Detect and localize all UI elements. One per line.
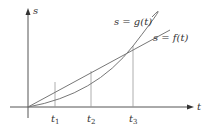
curve-g-label: s = g(t)	[114, 16, 152, 27]
curve-f-label: s = f(t)	[153, 32, 188, 43]
curve-f	[28, 30, 170, 107]
s-axis-arrow-icon	[26, 8, 31, 15]
diagram-canvas: s t s = g(t) s = f(t) t1 t2 t3	[0, 0, 208, 127]
t-axis-arrow-icon	[187, 105, 194, 110]
tick-t3: t3	[129, 113, 138, 126]
tick-t2: t2	[87, 113, 96, 126]
s-axis-label: s	[33, 5, 38, 16]
t-axis-label: t	[197, 101, 202, 112]
tick-t1: t1	[51, 113, 60, 126]
